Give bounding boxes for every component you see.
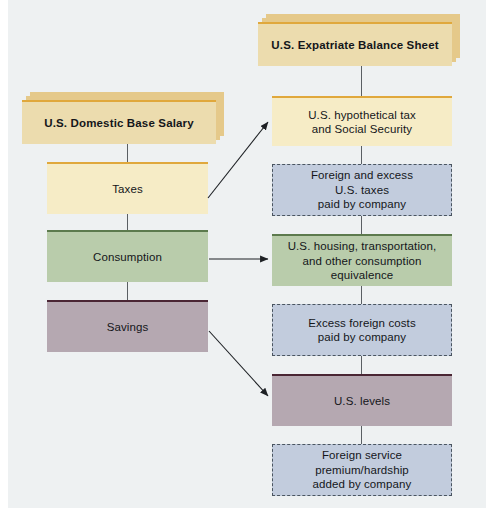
connector-excess-foreign-to-us-levels bbox=[361, 356, 362, 374]
left-column-header: U.S. Domestic Base Salary bbox=[22, 92, 224, 144]
node-us-levels-line1: U.S. levels bbox=[328, 394, 396, 409]
node-us-levels: U.S. levels bbox=[272, 374, 452, 426]
node-foreign-service-premium-line1: Foreign service bbox=[322, 449, 402, 461]
header-face: U.S. Domestic Base Salary bbox=[22, 100, 216, 144]
balance-sheet-diagram: U.S. Expatriate Balance Sheet U.S. Domes… bbox=[0, 0, 493, 522]
connector-right-header-to-hypothetical-tax bbox=[361, 66, 362, 96]
node-savings-label: Savings bbox=[101, 320, 155, 335]
node-foreign-service-premium: Foreign service premium/hardship added b… bbox=[272, 444, 452, 496]
connector-housing-to-excess-foreign bbox=[361, 286, 362, 304]
node-taxes: Taxes bbox=[47, 162, 208, 214]
right-header-label: U.S. Expatriate Balance Sheet bbox=[271, 39, 438, 51]
node-housing-transportation: U.S. housing, transportation, and other … bbox=[272, 234, 452, 286]
node-hypothetical-tax-line2: and Social Security bbox=[312, 123, 412, 135]
connector-left-header-to-taxes bbox=[127, 144, 128, 162]
node-hypothetical-tax-line1: U.S. hypothetical tax bbox=[308, 109, 416, 121]
node-hypothetical-tax: U.S. hypothetical tax and Social Securit… bbox=[272, 96, 452, 146]
connector-hypothetical-tax-to-foreign-excess bbox=[361, 146, 362, 164]
node-excess-foreign-costs: Excess foreign costs paid by company bbox=[272, 304, 452, 356]
node-consumption-label: Consumption bbox=[87, 250, 168, 265]
node-foreign-service-premium-line3: added by company bbox=[313, 478, 412, 490]
node-foreign-excess-taxes-line3: paid by company bbox=[318, 198, 406, 210]
node-housing-transportation-line2: and other consumption bbox=[302, 255, 421, 267]
node-foreign-service-premium-line2: premium/hardship bbox=[315, 464, 409, 476]
connector-us-levels-to-foreign-service bbox=[361, 426, 362, 444]
connector-foreign-excess-to-housing bbox=[361, 216, 362, 234]
node-foreign-excess-taxes-line2: U.S. taxes bbox=[335, 184, 389, 196]
node-excess-foreign-costs-line1: Excess foreign costs bbox=[308, 317, 415, 329]
right-column-header: U.S. Expatriate Balance Sheet bbox=[258, 14, 460, 66]
node-savings: Savings bbox=[47, 300, 208, 352]
node-excess-foreign-costs-line2: paid by company bbox=[318, 331, 406, 343]
node-housing-transportation-line3: equivalence bbox=[331, 269, 393, 281]
node-foreign-excess-taxes-line1: Foreign and excess bbox=[311, 169, 413, 181]
node-foreign-excess-taxes: Foreign and excess U.S. taxes paid by co… bbox=[272, 164, 452, 216]
header-face: U.S. Expatriate Balance Sheet bbox=[258, 22, 452, 66]
node-housing-transportation-line1: U.S. housing, transportation, bbox=[288, 240, 437, 252]
left-header-label: U.S. Domestic Base Salary bbox=[44, 117, 194, 129]
connector-consumption-to-savings bbox=[127, 282, 128, 300]
node-taxes-label: Taxes bbox=[106, 182, 149, 197]
node-consumption: Consumption bbox=[47, 230, 208, 282]
